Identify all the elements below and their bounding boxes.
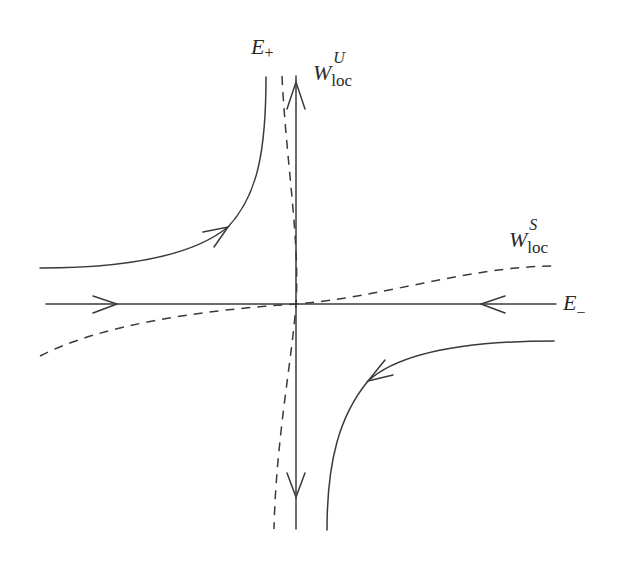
w-stable-local-manifold [40, 266, 555, 356]
label-e-minus: E− [563, 292, 585, 314]
label-e-minus-base: E [563, 290, 576, 315]
w-unstable-local-manifold [274, 76, 297, 529]
label-e-plus-sub: + [264, 44, 273, 61]
label-w-unstable-sup: U [333, 50, 345, 66]
label-w-stable-sub: loc [527, 239, 548, 256]
saddle-phase-portrait: E+ WUloc WSloc E− [0, 0, 622, 565]
label-w-stable-sup: S [529, 217, 537, 233]
label-e-minus-sub: − [576, 304, 585, 321]
trajectory-lower-right [327, 341, 554, 530]
phase-portrait-svg [0, 0, 622, 565]
label-e-plus-base: E [251, 34, 264, 59]
label-w-unstable-base: W [313, 60, 331, 85]
label-w-unstable: WUloc [313, 62, 331, 84]
label-w-unstable-sub: loc [331, 72, 352, 89]
trajectory-upper-left [40, 77, 266, 268]
label-w-stable: WSloc [509, 229, 527, 251]
label-w-stable-base: W [509, 227, 527, 252]
label-e-plus: E+ [251, 36, 273, 58]
